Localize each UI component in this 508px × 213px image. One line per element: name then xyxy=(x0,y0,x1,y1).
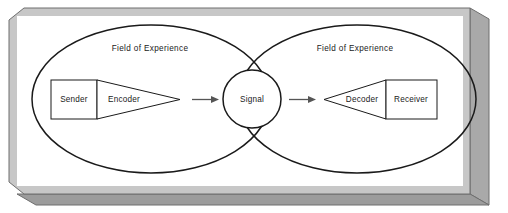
communication-model-diagram: Sender Encoder Signal Decoder xyxy=(0,0,508,213)
right-field-of-experience-label: Field of Experience xyxy=(317,44,394,53)
decoder-label: Decoder xyxy=(346,95,378,104)
sender-label: Sender xyxy=(60,95,88,104)
left-field-of-experience-label: Field of Experience xyxy=(112,44,189,53)
frame-side-face xyxy=(470,8,489,205)
encoder-label: Encoder xyxy=(108,95,140,104)
receiver-label: Receiver xyxy=(394,95,428,104)
diagram-stage: Sender Encoder Signal Decoder xyxy=(0,0,508,213)
sender-node: Sender xyxy=(51,80,97,119)
receiver-node: Receiver xyxy=(386,80,437,119)
frame-bottom-face xyxy=(17,194,489,205)
signal-node: Signal xyxy=(223,70,281,128)
signal-label: Signal xyxy=(240,95,264,104)
